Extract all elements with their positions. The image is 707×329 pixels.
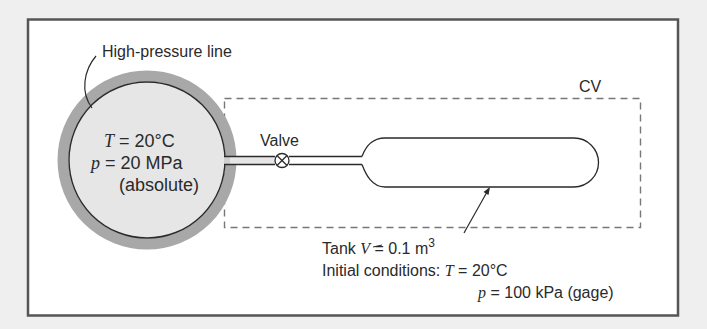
tank-vessel xyxy=(362,138,599,187)
diagram-stage: High-pressure line T = 20°C p = 20 MPa (… xyxy=(0,0,707,329)
valve-icon xyxy=(275,154,289,168)
initial-conditions-label: Initial conditions: T = 20°C xyxy=(322,262,508,279)
initial-pressure-label: p = 100 kPa (gage) xyxy=(477,284,614,302)
line-temperature-label: T = 20°C xyxy=(104,131,175,151)
line-pressure-note: (absolute) xyxy=(119,175,199,195)
tank-filling-diagram: High-pressure line T = 20°C p = 20 MPa (… xyxy=(0,0,707,329)
high-pressure-line-label: High-pressure line xyxy=(102,43,232,60)
line-pressure-label: p = 20 MPa xyxy=(89,153,184,173)
control-volume-label: CV xyxy=(579,78,602,95)
valve-label: Valve xyxy=(260,132,299,149)
tank-volume-label: Tank V = 0.1 m3 xyxy=(322,236,435,257)
